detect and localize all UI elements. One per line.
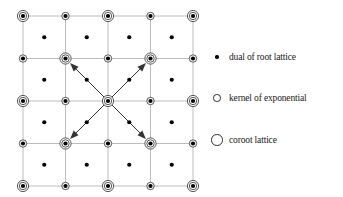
lattice-node-coroot-lattice [17, 10, 28, 21]
dual-of-root-lattice-dot [21, 14, 25, 18]
lattice-node-kernel-of-exponential [189, 140, 196, 147]
dual-of-root-lattice-dot [170, 35, 174, 39]
dual-of-root-lattice-dot [63, 56, 67, 60]
lattice-node-coroot-lattice [102, 10, 113, 21]
lattice-node-coroot-lattice [187, 180, 198, 191]
dual-of-root-lattice-dot [85, 78, 89, 82]
arrow-up-left-shaft [74, 67, 108, 101]
lattice-node-kernel-of-exponential [147, 182, 154, 189]
lattice-node-kernel-of-exponential [147, 12, 154, 19]
dual-of-root-lattice-dot [127, 78, 131, 82]
dual-of-root-lattice-dot [42, 78, 46, 82]
dual-of-root-lattice-dot [170, 120, 174, 124]
dual-of-root-lattice-dot [148, 14, 152, 18]
lattice-node-coroot-lattice [60, 53, 71, 64]
lattice-node-coroot-lattice [17, 180, 28, 191]
legend-label-kernel-of-exponential: kernel of exponential [229, 93, 307, 103]
legend-label-coroot-lattice: coroot lattice [229, 135, 277, 145]
lattice-node-kernel-of-exponential [62, 182, 69, 189]
dual-of-root-lattice-dot [106, 141, 110, 145]
legend-entry-dual-of-root-lattice: dual of root lattice [205, 47, 296, 67]
lattice-node-coroot-lattice [60, 138, 71, 149]
lattice-node-coroot-lattice [187, 95, 198, 106]
dual-of-root-lattice-dot [106, 184, 110, 188]
dual-of-root-lattice-dot [170, 78, 174, 82]
lattice-node-coroot-lattice [145, 53, 156, 64]
arrow-down-right-shaft [108, 101, 142, 135]
dual-of-root-lattice-dot [170, 163, 174, 167]
dual-of-root-lattice-dot [148, 184, 152, 188]
legend: dual of root lattice kernel of exponenti… [205, 0, 343, 197]
lattice-node-kernel-of-exponential [104, 140, 111, 147]
dual-of-root-lattice-dot [21, 184, 25, 188]
dual-of-root-lattice-dot [148, 99, 152, 103]
dual-of-root-lattice-dot-icon [205, 55, 229, 58]
dual-of-root-lattice-dot [85, 35, 89, 39]
kernel-of-exponential-circle-icon [205, 94, 229, 102]
dual-of-root-lattice-dot [21, 56, 25, 60]
dual-of-root-lattice-dot [191, 56, 195, 60]
dual-of-root-lattice-dot [127, 120, 131, 124]
dual-of-root-lattice-dot [85, 163, 89, 167]
dual-of-root-lattice-dot [127, 35, 131, 39]
lattice-node-coroot-lattice [102, 180, 113, 191]
dual-of-root-lattice-dot [191, 14, 195, 18]
dual-of-root-lattice-dot [42, 163, 46, 167]
dual-of-root-lattice-dot [191, 184, 195, 188]
dual-of-root-lattice-dot [63, 184, 67, 188]
dual-of-root-lattice-dot [63, 141, 67, 145]
lattice-node-kernel-of-exponential [62, 12, 69, 19]
lattice-node-coroot-lattice [102, 95, 113, 106]
lattice-figure: dual of root lattice kernel of exponenti… [0, 0, 343, 197]
lattice-node-coroot-lattice [187, 10, 198, 21]
legend-label-dual-of-root-lattice: dual of root lattice [229, 52, 296, 62]
dual-of-root-lattice-dot [106, 56, 110, 60]
lattice-node-kernel-of-exponential [104, 55, 111, 62]
lattice-node-kernel-of-exponential [19, 55, 26, 62]
dual-of-root-lattice-dot [63, 14, 67, 18]
lattice-node-coroot-lattice [17, 95, 28, 106]
lattice-node-kernel-of-exponential [19, 140, 26, 147]
lattice-node-kernel-of-exponential [62, 97, 69, 104]
dual-of-root-lattice-dot [42, 35, 46, 39]
dual-of-root-lattice-dot [85, 120, 89, 124]
dual-of-root-lattice-dot [106, 14, 110, 18]
dual-of-root-lattice-dot [127, 163, 131, 167]
legend-entry-kernel-of-exponential: kernel of exponential [205, 88, 307, 108]
arrow-up-right-shaft [108, 67, 142, 101]
dual-of-root-lattice-dot [106, 99, 110, 103]
lattice-node-kernel-of-exponential [147, 97, 154, 104]
dual-of-root-lattice-dot [63, 99, 67, 103]
arrow-down-left-shaft [74, 101, 108, 135]
legend-entry-coroot-lattice: coroot lattice [205, 130, 277, 150]
coroot-lattice-circle-icon [205, 134, 229, 146]
dual-of-root-lattice-dot [148, 56, 152, 60]
dual-of-root-lattice-dot [148, 141, 152, 145]
dual-of-root-lattice-dot [21, 99, 25, 103]
dual-of-root-lattice-dot [191, 99, 195, 103]
lattice-node-kernel-of-exponential [189, 55, 196, 62]
dual-of-root-lattice-dot [21, 141, 25, 145]
lattice-node-coroot-lattice [145, 138, 156, 149]
dual-of-root-lattice-dot [42, 120, 46, 124]
dual-of-root-lattice-dot [191, 141, 195, 145]
